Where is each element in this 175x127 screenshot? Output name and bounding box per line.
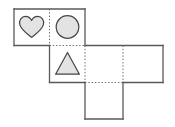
face-triangle[interactable]: [50, 46, 85, 82]
cube-net-diagram: Cube net with shapes Heart Circle Triang…: [0, 0, 175, 127]
blank-face-middle-right[interactable]: [123, 46, 163, 82]
blank-face-bottom[interactable]: [85, 83, 123, 119]
face-heart[interactable]: [14, 9, 49, 45]
blank-face-middle-left[interactable]: [85, 46, 123, 82]
face-circle[interactable]: [50, 9, 85, 45]
